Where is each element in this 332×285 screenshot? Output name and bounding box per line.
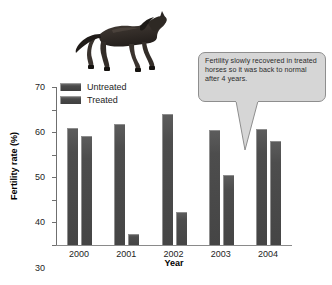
y-axis-title: Fertility rate (%) xyxy=(8,87,20,245)
y-axis-tick: 10 xyxy=(52,222,56,223)
y-axis-tick: 20 xyxy=(52,200,56,201)
y-axis-tick-label: 70 xyxy=(35,82,45,92)
y-axis-tick-label: 40 xyxy=(35,217,45,227)
y-axis-tick-label: 30 xyxy=(35,263,45,273)
plot-area: 010203040506070 20002001200220032004 xyxy=(56,87,292,245)
bar-treated-2000 xyxy=(81,136,92,245)
y-axis-tick: 0 xyxy=(52,245,56,246)
callout-text: Fertility slowly recovered in treated ho… xyxy=(205,57,322,84)
bar-group-2000 xyxy=(67,87,92,245)
fertility-rate-bar-chart: Fertility slowly recovered in treated ho… xyxy=(0,0,332,285)
y-axis-tick: 70 xyxy=(52,87,56,88)
bar-untreated-2003 xyxy=(209,130,220,245)
bar-group-2003 xyxy=(209,87,234,245)
y-axis-tick: 40 xyxy=(52,155,56,156)
bar-treated-2003 xyxy=(223,175,234,245)
x-axis-title: Year xyxy=(56,258,292,268)
x-axis-line xyxy=(56,245,292,246)
bar-untreated-2000 xyxy=(67,128,78,245)
bar-treated-2002 xyxy=(176,212,187,245)
bar-untreated-2002 xyxy=(162,114,173,245)
bar-treated-2001 xyxy=(128,234,139,245)
galloping-horse-illustration xyxy=(62,6,182,76)
bar-untreated-2001 xyxy=(114,124,125,245)
bar-group-2002 xyxy=(162,87,187,245)
bar-group-2004 xyxy=(256,87,281,245)
bar-group-2001 xyxy=(114,87,139,245)
y-axis-line xyxy=(56,87,57,245)
y-axis-tick-label: 50 xyxy=(35,172,45,182)
y-axis-tick: 50 xyxy=(52,132,56,133)
y-axis-tick: 60 xyxy=(52,110,56,111)
y-axis-title-text: Fertility rate (%) xyxy=(9,132,19,200)
y-axis-tick: 30 xyxy=(52,177,56,178)
bar-treated-2004 xyxy=(270,141,281,245)
y-axis-tick-label: 60 xyxy=(35,127,45,137)
bar-untreated-2004 xyxy=(256,129,267,245)
